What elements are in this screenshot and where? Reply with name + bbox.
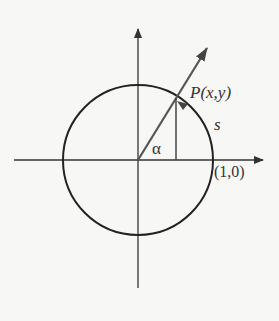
- unit-circle-diagram: P(x,y) s α (1,0): [0, 0, 279, 321]
- terminal-ray: [138, 48, 207, 160]
- arc-length-label: s: [214, 115, 221, 134]
- angle-label: α: [152, 139, 161, 158]
- point-label: P(x,y): [189, 83, 231, 102]
- unit-point-label: (1,0): [214, 163, 245, 181]
